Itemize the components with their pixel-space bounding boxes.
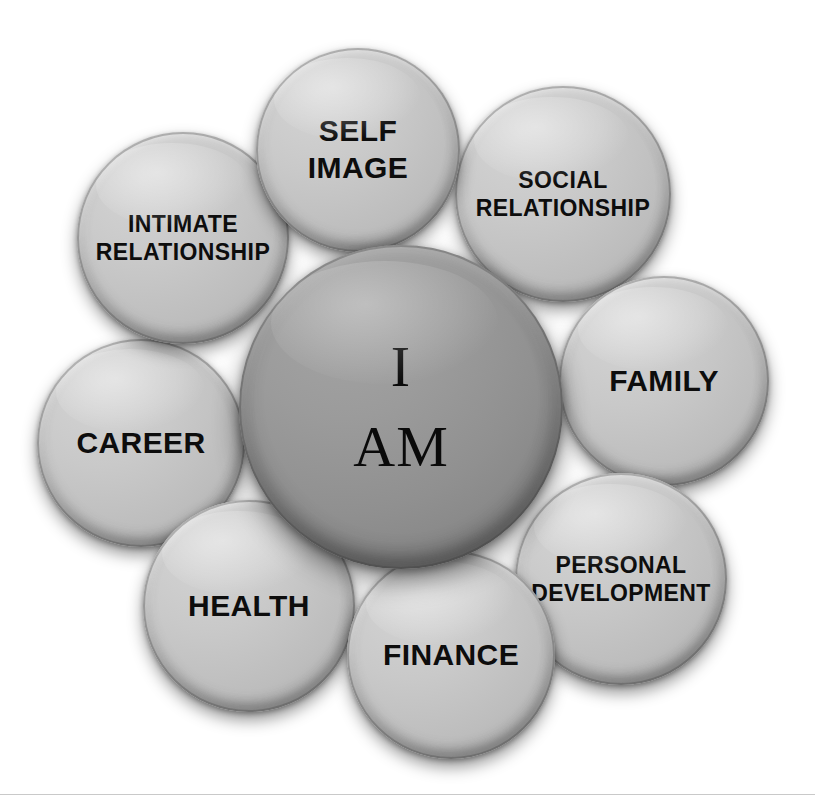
bubble-health-label: HEALTH <box>182 588 316 625</box>
bubble-finance-label: FINANCE <box>377 637 525 674</box>
i-am-core-bubble[interactable]: I AM <box>239 245 563 569</box>
bubble-social-relationship-label: SOCIAL RELATIONSHIP <box>470 166 656 222</box>
diagram-canvas: SELF IMAGESOCIAL RELATIONSHIPFAMILYPERSO… <box>0 0 815 802</box>
bubble-intimate-relationship-label: INTIMATE RELATIONSHIP <box>90 210 276 266</box>
bubble-finance[interactable]: FINANCE <box>347 551 555 759</box>
bubble-career-label: CAREER <box>70 425 211 462</box>
bubble-self-image[interactable]: SELF IMAGE <box>256 48 460 252</box>
bubble-self-image-label: SELF IMAGE <box>302 113 414 186</box>
i-am-core-bubble-label: I AM <box>347 327 454 487</box>
bubble-personal-development-label: PERSONAL DEVELOPMENT <box>525 551 716 607</box>
bubble-family[interactable]: FAMILY <box>559 276 769 486</box>
bubble-family-label: FAMILY <box>603 363 725 400</box>
page-bottom-edge <box>0 794 815 802</box>
